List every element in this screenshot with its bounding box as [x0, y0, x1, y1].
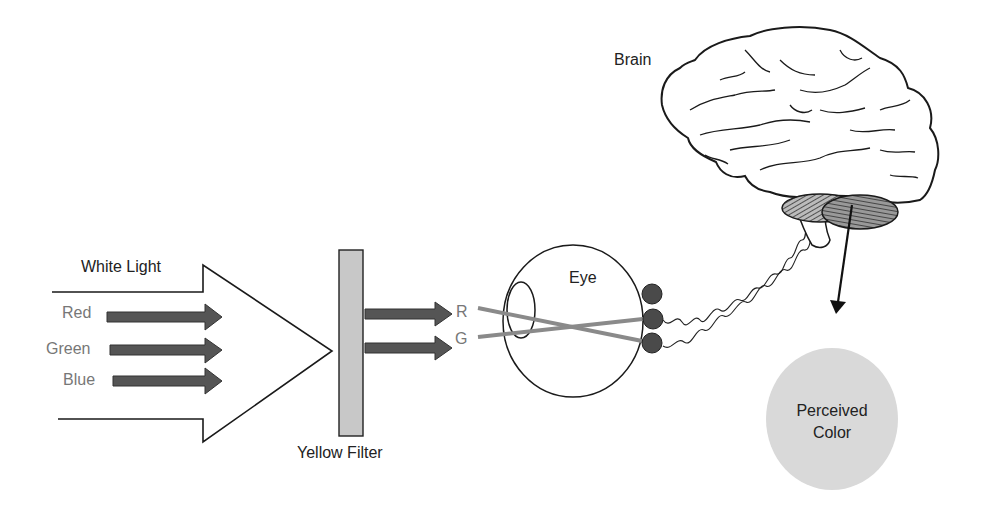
- cone-bottom: [642, 333, 662, 353]
- cerebellum-front: [822, 195, 898, 229]
- r-label: R: [456, 303, 468, 321]
- red-label: Red: [62, 304, 91, 322]
- yellow-filter: [339, 250, 363, 436]
- brain-label: Brain: [614, 51, 651, 69]
- eye-label: Eye: [569, 269, 597, 287]
- g-label: G: [455, 330, 467, 348]
- white-light-label: White Light: [81, 258, 161, 276]
- eye: [478, 245, 663, 397]
- brain: [662, 27, 939, 247]
- perceived-label-line1: Perceived: [766, 400, 898, 422]
- perceived-color-label: Perceived Color: [766, 400, 898, 444]
- g-arrow: [365, 336, 452, 360]
- r-arrow: [365, 302, 452, 326]
- cone-top: [642, 284, 662, 304]
- perceived-label-line2: Color: [766, 422, 898, 444]
- green-label: Green: [46, 340, 90, 358]
- blue-label: Blue: [63, 371, 95, 389]
- yellow-filter-label: Yellow Filter: [297, 444, 383, 462]
- cone-middle: [643, 309, 663, 329]
